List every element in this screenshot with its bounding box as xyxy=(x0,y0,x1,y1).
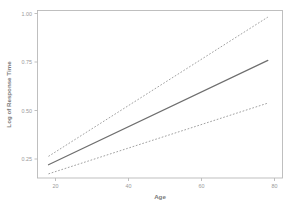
y-tick-label-1: 1.00 xyxy=(22,11,33,17)
chart-page: 1.00 0.75 0.50 0.25 20 40 60 80 Age Log … xyxy=(0,0,300,208)
x-tick-label-2: 40 xyxy=(126,183,132,189)
x-axis-title: Age xyxy=(154,193,166,200)
x-tick-label-3: 60 xyxy=(199,183,205,189)
y-axis-title: Log of Response Time xyxy=(5,61,12,128)
regression-chart: 1.00 0.75 0.50 0.25 20 40 60 80 Age Log … xyxy=(0,0,300,208)
y-tick-label-3: 0.50 xyxy=(22,108,33,114)
x-tick-label-4: 80 xyxy=(272,183,278,189)
x-tick-label-1: 20 xyxy=(53,183,59,189)
y-tick-label-4: 0.25 xyxy=(22,156,33,162)
chart-background xyxy=(0,0,300,208)
y-tick-label-2: 0.75 xyxy=(22,59,33,65)
